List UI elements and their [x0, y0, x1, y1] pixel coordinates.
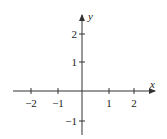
coordinate-plane: x y −2 −1 1 2 2 1 −1	[0, 0, 167, 139]
x-axis-label: x	[149, 78, 155, 90]
x-tick-label: −2	[25, 97, 37, 109]
y-tick-label: −1	[65, 115, 77, 127]
y-tick-label: 1	[72, 56, 78, 68]
y-axis-label: y	[87, 10, 93, 22]
x-tick-label: 2	[131, 97, 137, 109]
y-tick-label: 2	[72, 28, 78, 40]
x-tick-label: 1	[106, 97, 112, 109]
x-tick-label: −1	[52, 97, 64, 109]
